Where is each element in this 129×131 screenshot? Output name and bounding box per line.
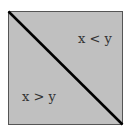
diagram-canvas xyxy=(0,0,129,131)
label-x-greater-than-y: x > y xyxy=(22,90,56,103)
xy-region-diagram: x < y x > y xyxy=(0,0,129,131)
label-x-less-than-y: x < y xyxy=(78,32,112,45)
